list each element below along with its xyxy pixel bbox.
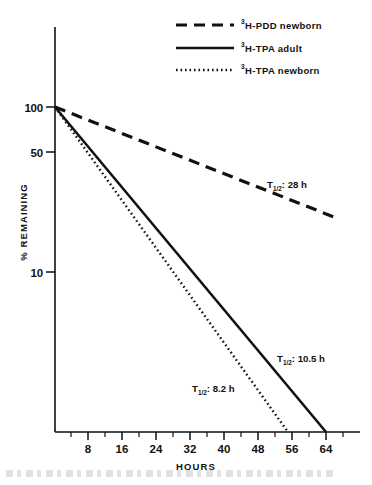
legend-text-tpa-adult: H-TPA adult (245, 43, 303, 54)
legend-label-tpa-adult: 3H-TPA adult (241, 41, 303, 54)
y-tick-label-10: 10 (31, 267, 43, 279)
annotation-t-half-dashed: T1/2: 28 h (267, 179, 307, 192)
y-axis-title: % REMAINING (18, 183, 29, 261)
legend: 3H-PDD newborn 3H-TPA adult 3H-TPA newbo… (176, 18, 322, 76)
x-tick-label-40: 40 (218, 443, 231, 455)
y-tick-label-100: 100 (24, 102, 43, 114)
legend-text-pdd: H-PDD newborn (245, 20, 322, 31)
annotation-dotted-text: T1/2: 8.2 h (192, 383, 235, 396)
legend-text-tpa-newborn: H-TPA newborn (245, 65, 320, 76)
annotation-dashed-text: T1/2: 28 h (267, 179, 307, 192)
x-tick-label-24: 24 (150, 443, 163, 455)
series-line-tpa-adult (55, 107, 326, 432)
legend-label-pdd-newborn: 3H-PDD newborn (241, 18, 322, 31)
annotation-solid-text: T1/2: 10.5 h (277, 353, 325, 366)
annotation-dotted-value: : 8.2 h (207, 383, 235, 394)
chart-svg: 100 50 10 % REMAINING (0, 0, 372, 485)
annotation-t-half-solid: T1/2: 10.5 h (277, 353, 325, 366)
x-tick-label-64: 64 (320, 443, 333, 455)
legend-item-tpa-newborn: 3H-TPA newborn (176, 63, 320, 76)
x-axis-tick-labels: 8 16 24 32 40 48 56 64 (85, 443, 333, 455)
x-tick-label-48: 48 (252, 443, 265, 455)
x-tick-label-56: 56 (286, 443, 299, 455)
axes-group (55, 27, 360, 432)
series-line-tpa-newborn (55, 107, 288, 432)
decay-chart-figure: 100 50 10 % REMAINING (0, 0, 372, 485)
annotation-dashed-value: : 28 h (282, 179, 307, 190)
annotation-solid-value: : 10.5 h (292, 353, 325, 364)
x-tick-label-8: 8 (85, 443, 92, 455)
y-tick-label-50: 50 (31, 147, 43, 159)
legend-item-pdd-newborn: 3H-PDD newborn (176, 18, 322, 31)
x-tick-label-32: 32 (184, 443, 197, 455)
legend-item-tpa-adult: 3H-TPA adult (176, 41, 303, 54)
legend-label-tpa-newborn: 3H-TPA newborn (241, 63, 320, 76)
caption-artifact-strip (6, 470, 336, 477)
series-line-pdd-newborn (55, 107, 339, 219)
annotation-t-half-dotted: T1/2: 8.2 h (192, 383, 235, 396)
x-tick-label-16: 16 (116, 443, 129, 455)
